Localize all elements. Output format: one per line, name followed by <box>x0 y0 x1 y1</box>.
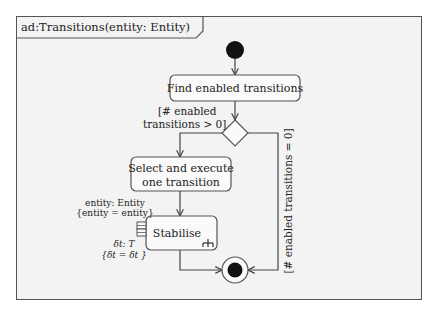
pin-delta-label-line1: δt: T <box>114 239 136 249</box>
guard-gt-zero-line2: transitions > 0] <box>143 118 226 130</box>
action-stabilise-label: Stabilise <box>153 227 201 240</box>
activity-final-node[interactable] <box>222 257 248 283</box>
pin-entity-label-line1: entity: Entity <box>85 198 146 208</box>
edge-decision-to-final <box>248 133 278 270</box>
guard-eq-zero: [# enabled transitions = 0] <box>282 128 294 273</box>
initial-node[interactable] <box>226 41 244 59</box>
pin-delta-t[interactable] <box>137 229 146 236</box>
pin-delta-label-line2: {δt = δt } <box>101 250 147 260</box>
edge-stabilise-to-final <box>180 250 222 270</box>
action-select-label-line2: one transition <box>142 176 220 189</box>
edge-decision-to-select <box>180 133 222 157</box>
pin-entity[interactable] <box>137 222 146 229</box>
guard-gt-zero-line1: [# enabled <box>158 105 217 117</box>
action-select-label-line1: Select and execute <box>128 162 234 175</box>
pin-entity-label-line2: {entity = entity} <box>76 208 153 218</box>
frame-title: ad:Transitions(entity: Entity) <box>21 20 190 34</box>
action-find-label: Find enabled transitions <box>167 82 304 95</box>
activity-diagram: ad:Transitions(entity: Entity) Find enab… <box>0 0 437 316</box>
